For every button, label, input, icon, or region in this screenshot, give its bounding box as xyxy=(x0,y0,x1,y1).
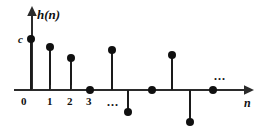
stem-n4 xyxy=(111,50,113,90)
stem-head-n3 xyxy=(86,86,94,94)
amplitude-label-c: c xyxy=(18,34,23,45)
tick-label-1: 1 xyxy=(47,96,53,107)
ellipsis-upper: ... xyxy=(214,70,226,82)
stem-n0 xyxy=(30,39,32,90)
tick-label-0: 0 xyxy=(21,96,27,107)
stem-plot-figure: h(n) n c 0 1 2 3 ... ... xyxy=(0,0,263,129)
stem-head-n6 xyxy=(148,86,156,94)
stem-head-n0 xyxy=(27,35,35,43)
tick-mark-2 xyxy=(71,85,72,90)
stem-head-n1 xyxy=(46,43,54,51)
x-axis-label: n xyxy=(244,97,251,109)
ellipsis-baseline: ... xyxy=(107,96,119,108)
tick-label-2: 2 xyxy=(67,96,73,107)
stem-head-n5 xyxy=(124,108,132,116)
stem-head-n7 xyxy=(168,51,176,59)
stem-head-n8 xyxy=(186,118,194,126)
y-axis-label: h(n) xyxy=(37,8,60,21)
stem-head-n2 xyxy=(67,54,75,62)
stem-head-n9 xyxy=(209,86,217,94)
x-axis-arrowhead xyxy=(244,84,256,96)
tick-label-3: 3 xyxy=(86,96,92,107)
tick-mark-1 xyxy=(50,85,51,90)
stem-n1 xyxy=(49,47,51,90)
stem-head-n4 xyxy=(108,46,116,54)
stem-n7 xyxy=(171,55,173,90)
